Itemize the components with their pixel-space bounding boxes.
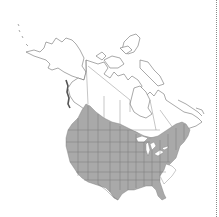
arctic-island-baffin: [140, 60, 164, 86]
aleutians: [18, 24, 28, 46]
alaska: [26, 38, 86, 80]
panel-divider-dotted-line: [216, 0, 217, 217]
arctic-island-banks: [96, 52, 106, 60]
north-america-map-svg: [0, 0, 219, 217]
distribution-map: North America distribution map: [0, 0, 219, 217]
